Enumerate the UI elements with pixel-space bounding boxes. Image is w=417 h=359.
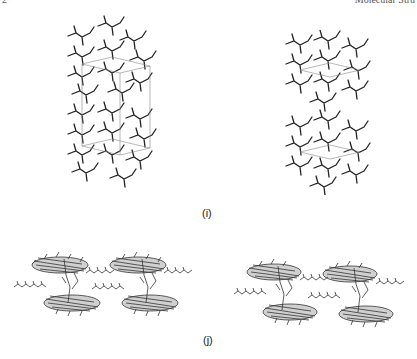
figure-i-right-view [280, 30, 380, 195]
figure-j-right-view [232, 258, 417, 330]
aromatic-stack [247, 259, 393, 327]
aromatic-stack [32, 252, 178, 316]
crystal-packing-structure-j-right [232, 258, 417, 330]
crystal-packing-structure-i-right [280, 30, 380, 195]
page-header-fragment-right: Molecular Stru [355, 0, 415, 5]
figure-j-label: (j) [203, 334, 213, 346]
figure-i-label: (i) [202, 207, 212, 219]
figure-j-left-view [10, 245, 200, 325]
figure-i-left-view [60, 14, 170, 199]
crystal-packing-structure-j-left [10, 245, 200, 325]
page-header-fragment-left: 2 [2, 0, 7, 5]
crystal-packing-structure-i-left [60, 14, 170, 199]
